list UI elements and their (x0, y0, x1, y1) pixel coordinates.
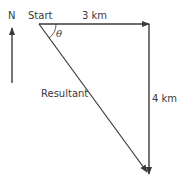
resultant-label: Resultant (41, 89, 88, 99)
angle-arc (49, 24, 56, 38)
south-vector-label: 4 km (152, 94, 177, 104)
angle-theta-label: θ (56, 29, 62, 39)
vector-diagram (0, 0, 181, 178)
north-label: N (8, 11, 15, 21)
start-label: Start (28, 11, 52, 21)
east-vector-label: 3 km (82, 11, 107, 21)
